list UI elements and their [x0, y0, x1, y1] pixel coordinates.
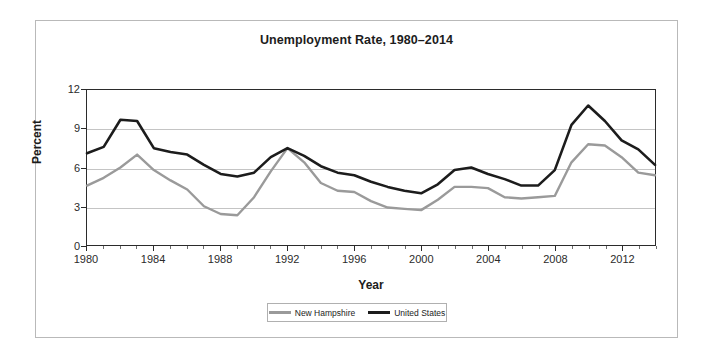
series-line — [87, 144, 655, 215]
x-axis-tick-mark-minor — [405, 246, 406, 249]
legend-label: United States — [394, 308, 445, 318]
y-axis-tick-label: 9 — [40, 122, 80, 134]
x-axis-tick-mark-minor — [337, 246, 338, 249]
x-axis-tick-mark-major — [354, 246, 355, 251]
x-axis-tick-mark-minor — [187, 246, 188, 249]
x-axis-tick-mark-major — [488, 246, 489, 251]
legend-entry: New Hampshire — [269, 308, 355, 318]
x-axis-tick-mark-minor — [606, 246, 607, 249]
series-lines — [87, 90, 655, 245]
x-axis-tick-label: 2004 — [464, 253, 512, 265]
y-axis-tick-label: 12 — [40, 83, 80, 95]
x-axis-tick-mark-minor — [321, 246, 322, 249]
x-axis-tick-labels: 198019841988199219962000200420082012 — [86, 253, 656, 269]
x-axis-tick-mark-minor — [203, 246, 204, 249]
x-axis-tick-label: 1984 — [129, 253, 177, 265]
x-axis-tick-label: 1992 — [263, 253, 311, 265]
legend-swatch — [269, 311, 291, 314]
legend-entry: United States — [368, 308, 445, 318]
x-axis-tick-label: 1988 — [196, 253, 244, 265]
x-axis-tick-mark-major — [287, 246, 288, 251]
x-axis-tick-label: 2000 — [397, 253, 445, 265]
x-axis-tick-mark-minor — [589, 246, 590, 249]
y-axis-tick-label: 0 — [40, 240, 80, 252]
x-axis-tick-mark-major — [555, 246, 556, 251]
x-axis-tick-mark-minor — [254, 246, 255, 249]
x-axis-tick-label: 1980 — [62, 253, 110, 265]
chart-figure: Unemployment Rate, 1980–2014 Percent 036… — [0, 0, 715, 358]
y-axis-tick-labels: 036912 — [38, 89, 80, 246]
x-axis-tick-mark-minor — [639, 246, 640, 249]
x-axis-tick-mark-minor — [388, 246, 389, 249]
x-axis-tick-mark-minor — [136, 246, 137, 249]
x-axis-tick-mark-minor — [438, 246, 439, 249]
x-axis-tick-mark-minor — [371, 246, 372, 249]
x-axis-tick-label: 2012 — [598, 253, 646, 265]
legend-label: New Hampshire — [295, 308, 355, 318]
x-axis-tick-mark-minor — [572, 246, 573, 249]
x-axis-tick-mark-major — [421, 246, 422, 251]
y-axis-tick-label: 3 — [40, 201, 80, 213]
y-axis-tick-label: 6 — [40, 162, 80, 174]
x-axis-tick-mark-minor — [170, 246, 171, 249]
x-axis-tick-mark-major — [220, 246, 221, 251]
x-axis-tick-label: 2008 — [531, 253, 579, 265]
x-axis-tick-mark-minor — [472, 246, 473, 249]
x-axis-tick-mark-minor — [237, 246, 238, 249]
chart-title: Unemployment Rate, 1980–2014 — [35, 33, 678, 47]
x-axis-tick-mark-minor — [455, 246, 456, 249]
x-axis-tick-mark-major — [153, 246, 154, 251]
chart-legend: New HampshireUnited States — [267, 303, 447, 322]
x-axis-label: Year — [86, 278, 656, 292]
x-axis-tick-label: 1996 — [330, 253, 378, 265]
x-axis-tick-mark-minor — [522, 246, 523, 249]
x-axis-tick-mark-minor — [103, 246, 104, 249]
x-axis-tick-mark-minor — [539, 246, 540, 249]
x-axis-tick-mark-minor — [304, 246, 305, 249]
legend-swatch — [368, 311, 390, 314]
x-axis-tick-mark-minor — [120, 246, 121, 249]
plot-inner — [87, 90, 655, 245]
x-axis-tick-mark-minor — [270, 246, 271, 249]
plot-area — [86, 89, 656, 246]
x-axis-tick-mark-major — [622, 246, 623, 251]
x-axis-tick-mark-major — [86, 246, 87, 251]
x-axis-tick-mark-minor — [505, 246, 506, 249]
x-axis-tick-mark-minor — [656, 246, 657, 249]
